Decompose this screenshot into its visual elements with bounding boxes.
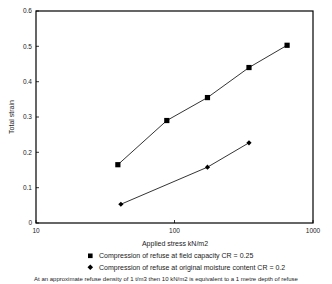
square-marker-icon — [164, 118, 169, 123]
series-2 — [118, 140, 251, 207]
y-axis-title: Total strain — [8, 100, 15, 134]
diamond-marker-icon — [246, 140, 251, 145]
x-axis-title: Applied stress kN/m2 — [142, 240, 208, 248]
square-marker-icon — [246, 65, 251, 70]
series-line — [118, 45, 287, 164]
x-axis-tick-labels: 10 100 1000 — [32, 227, 320, 234]
legend-label: Compression of refuse at original moistu… — [99, 264, 285, 272]
x-tick-label: 10 — [32, 227, 40, 234]
compression-vs-applied-stress-chart: 0.6 0.5 0.4 0.3 0.2 0.1 0 Total strain 1… — [0, 0, 332, 284]
y-tick-label: 0.3 — [23, 113, 32, 120]
y-tick-label: 0.5 — [23, 43, 32, 50]
series-line — [121, 143, 249, 204]
square-marker-icon — [284, 43, 289, 48]
chart-figure: 0.6 0.5 0.4 0.3 0.2 0.1 0 Total strain 1… — [0, 0, 332, 284]
square-marker-icon — [115, 162, 120, 167]
plot-frame — [36, 11, 313, 223]
legend-entry-original-moisture: Compression of refuse at original moistu… — [88, 264, 286, 272]
series-layer — [115, 43, 289, 207]
diamond-marker-icon — [118, 202, 123, 207]
legend-entry-field-capacity: Compression of refuse at field capacity … — [88, 252, 253, 260]
legend-label: Compression of refuse at field capacity … — [99, 252, 253, 260]
y-tick-label: 0.4 — [23, 78, 32, 85]
y-axis-tick-labels: 0.6 0.5 0.4 0.3 0.2 0.1 0 — [23, 7, 32, 226]
square-marker-icon — [88, 254, 93, 259]
diamond-marker-icon — [88, 264, 94, 270]
y-tick-label: 0.2 — [23, 149, 32, 156]
diamond-marker-icon — [205, 165, 210, 170]
square-marker-icon — [205, 95, 210, 100]
x-tick-label: 1000 — [306, 227, 321, 234]
x-tick-label: 100 — [169, 227, 180, 234]
y-tick-label: 0 — [28, 219, 32, 226]
y-tick-label: 0.6 — [23, 7, 32, 14]
series-1 — [115, 43, 289, 168]
footnote-caption: At an approximate refuse density of 1 t/… — [34, 276, 298, 282]
y-tick-label: 0.1 — [23, 184, 32, 191]
